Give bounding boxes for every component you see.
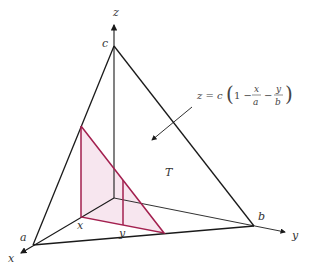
x-axis-label: x [8,252,15,265]
svg-text:(: ( [226,82,234,106]
point-x-label: x [77,219,84,232]
tetrahedron-diagram: z c a x b y x y T z = c ( 1 − x a − y b … [0,0,310,275]
formula-pointer-arrow [152,107,192,140]
vertex-c-label: c [102,37,108,50]
y-axis-label: y [291,229,299,242]
z-axis-label: z [112,6,119,19]
svg-text:): ) [285,82,293,106]
point-y-label: y [118,227,126,240]
vertex-a-label: a [20,231,27,244]
vertex-b-label: b [258,210,265,223]
svg-text:a: a [253,97,258,107]
svg-text:−: − [264,90,272,101]
svg-text:b: b [275,97,281,107]
plane-equation: z = c ( 1 − x a − y b ) [196,82,293,107]
svg-text:x: x [254,84,259,94]
svg-text:y: y [275,84,282,94]
svg-text:z = c: z = c [196,90,223,101]
svg-text:1 −: 1 − [234,90,252,101]
region-t-label: T [165,166,174,179]
